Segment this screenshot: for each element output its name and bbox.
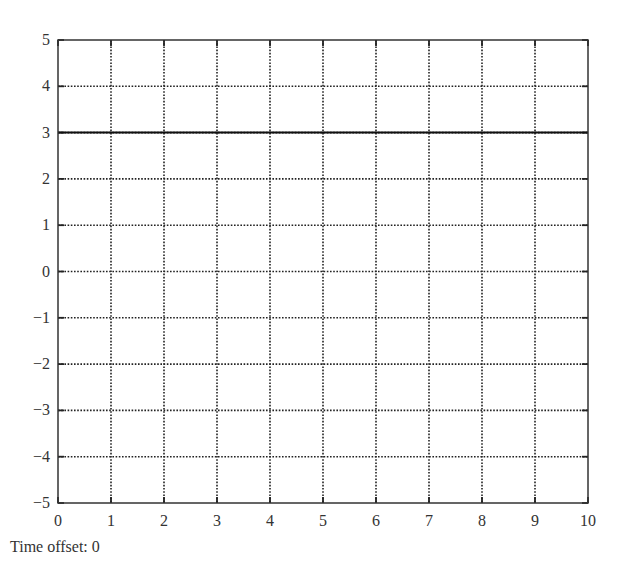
x-tick-label: 5 (319, 512, 327, 529)
y-tick-label: 0 (42, 263, 50, 280)
x-tick-label: 2 (160, 512, 168, 529)
y-tick-label: 2 (42, 170, 50, 187)
y-tick-label: −4 (33, 448, 50, 465)
y-axis-tick-labels: −5−4−3−2−1012345 (33, 31, 50, 511)
y-tick-label: 5 (42, 31, 50, 48)
y-tick-label: −2 (33, 355, 50, 372)
chart: 012345678910 −5−4−3−2−1012345 (0, 0, 624, 535)
grid-lines (58, 40, 588, 503)
x-tick-label: 4 (266, 512, 274, 529)
x-tick-label: 1 (107, 512, 115, 529)
y-tick-label: −1 (33, 309, 50, 326)
x-tick-label: 3 (213, 512, 221, 529)
y-tick-label: −3 (33, 401, 50, 418)
time-offset-caption: Time offset: 0 (10, 538, 100, 556)
y-tick-label: 3 (42, 124, 50, 141)
x-tick-label: 0 (54, 512, 62, 529)
x-tick-label: 6 (372, 512, 380, 529)
x-tick-label: 10 (580, 512, 596, 529)
x-tick-label: 9 (531, 512, 539, 529)
x-tick-label: 8 (478, 512, 486, 529)
y-tick-label: −5 (33, 494, 50, 511)
y-tick-label: 1 (42, 216, 50, 233)
x-tick-label: 7 (425, 512, 433, 529)
y-tick-label: 4 (42, 77, 50, 94)
x-axis-tick-labels: 012345678910 (54, 512, 596, 529)
